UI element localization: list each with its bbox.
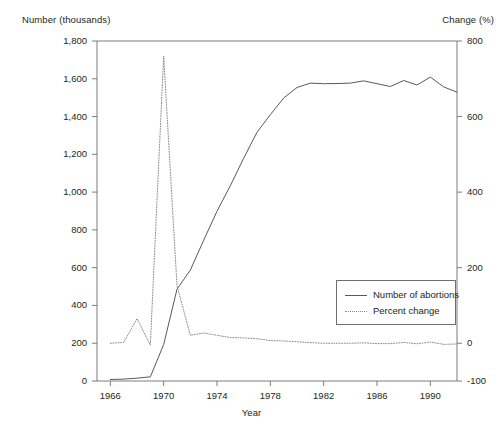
legend-swatch-solid-icon [345,295,367,296]
y-axis-tick-label: 800 [43,224,87,235]
legend-swatch-dotted-icon [345,311,367,312]
y-axis-tick-label: 600 [43,262,87,273]
y-axis-tick-label: 400 [43,299,87,310]
chart-figure: Number (thousands) Change (%) Year 02004… [0,0,503,443]
y-axis-tick-label: 200 [43,337,87,348]
legend-item-percent-change: Percent change [345,304,440,318]
x-axis-tick-label: 1970 [139,390,189,401]
y2-axis-tick-label: -100 [467,375,503,386]
y2-axis-tick-label: 800 [467,35,503,46]
legend-label: Percent change [373,306,440,316]
y2-axis-tick-label: 600 [467,111,503,122]
y-axis-tick-label: 1,200 [43,148,87,159]
x-axis-tick-label: 1978 [245,390,295,401]
x-axis-tick-label: 1982 [299,390,349,401]
x-axis-tick-label: 1974 [192,390,242,401]
y-axis-tick-label: 1,000 [43,186,87,197]
legend-item-number-of-abortions: Number of abortions [345,288,459,302]
x-axis-tick-label: 1986 [352,390,402,401]
right-axis-title: Change (%) [442,14,494,25]
axis-ticks [92,41,462,386]
left-axis-title: Number (thousands) [22,14,110,25]
series-layer [110,56,457,379]
y-axis-tick-label: 1,800 [43,35,87,46]
y-axis-tick-label: 1,600 [43,73,87,84]
y2-axis-tick-label: 400 [467,186,503,197]
y2-axis-tick-label: 200 [467,262,503,273]
x-axis-tick-label: 1990 [405,390,455,401]
x-axis-title: Year [0,407,503,418]
y-axis-tick-label: 0 [43,375,87,386]
y-axis-tick-label: 1,400 [43,111,87,122]
x-axis-tick-label: 1966 [85,390,135,401]
chart-legend: Number of abortions Percent change [336,280,456,325]
series-line-number-of-abortions [110,77,457,379]
legend-label: Number of abortions [373,290,459,300]
y2-axis-tick-label: 0 [467,337,503,348]
